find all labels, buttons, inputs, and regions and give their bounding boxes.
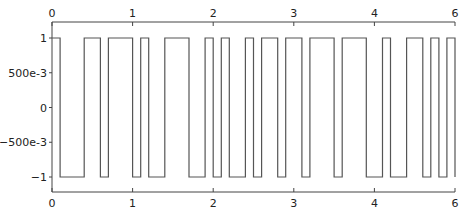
x-tick-label-bottom: 0 xyxy=(49,197,56,210)
x-ticks-bottom: 012346 xyxy=(49,188,459,210)
x-tick-label-bottom: 1 xyxy=(129,197,136,210)
chart: 012346 012346 1500e-30−500e-3−1 xyxy=(0,0,463,213)
x-tick-label-top: 1 xyxy=(129,7,136,20)
x-tick-label-top: 0 xyxy=(49,7,56,20)
y-ticks: 1500e-30−500e-3−1 xyxy=(0,32,52,184)
x-tick-label-top: 6 xyxy=(452,7,459,20)
y-tick-label: 1 xyxy=(40,32,47,45)
plot-area xyxy=(52,38,455,177)
x-tick-label-top: 3 xyxy=(290,7,297,20)
x-tick-label-top: 4 xyxy=(371,7,378,20)
x-ticks-top: 012346 xyxy=(49,7,459,26)
x-tick-label-top: 2 xyxy=(210,7,217,20)
y-tick-label: 0 xyxy=(40,102,47,115)
x-tick-label-bottom: 3 xyxy=(290,197,297,210)
y-tick-label: −500e-3 xyxy=(0,136,47,149)
signal-line xyxy=(52,38,455,177)
y-tick-label: 500e-3 xyxy=(8,67,47,80)
x-tick-label-bottom: 2 xyxy=(210,197,217,210)
x-tick-label-bottom: 6 xyxy=(452,197,459,210)
x-tick-label-bottom: 4 xyxy=(371,197,378,210)
y-tick-label: −1 xyxy=(31,171,47,184)
